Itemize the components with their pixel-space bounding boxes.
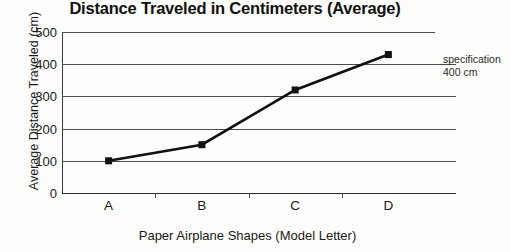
specification-label-line2: 400 cm — [443, 66, 501, 79]
gridline-0 — [62, 193, 456, 194]
data-series — [62, 32, 435, 193]
x-axis-title: Paper Airplane Shapes (Model Letter) — [60, 228, 435, 243]
line-chart: Distance Traveled in Centimeters (Averag… — [0, 0, 510, 252]
specification-annotation: specification 400 cm — [443, 53, 501, 79]
y-tick-label-100: 100 — [35, 153, 57, 168]
specification-label-line1: specification — [443, 53, 501, 66]
data-point-A — [105, 157, 112, 164]
y-tick-label-400: 400 — [35, 57, 57, 72]
x-tick-1 — [155, 193, 156, 198]
y-tick-label-0: 0 — [50, 186, 57, 201]
x-tick-label-A: A — [104, 198, 113, 213]
x-tick-label-B: B — [197, 198, 206, 213]
x-tick-2 — [249, 193, 250, 198]
x-tick-3 — [342, 193, 343, 198]
data-point-C — [292, 86, 299, 93]
x-tick-label-C: C — [290, 198, 300, 213]
y-tick-label-300: 300 — [35, 89, 57, 104]
data-point-B — [198, 141, 205, 148]
x-tick-label-D: D — [384, 198, 394, 213]
plot-area: 0100200300400500 ABCD — [62, 32, 435, 193]
series-line — [109, 55, 389, 161]
y-tick-label-200: 200 — [35, 121, 57, 136]
y-tick-label-500: 500 — [35, 25, 57, 40]
data-point-D — [385, 51, 392, 58]
chart-title: Distance Traveled in Centimeters (Averag… — [45, 0, 425, 18]
